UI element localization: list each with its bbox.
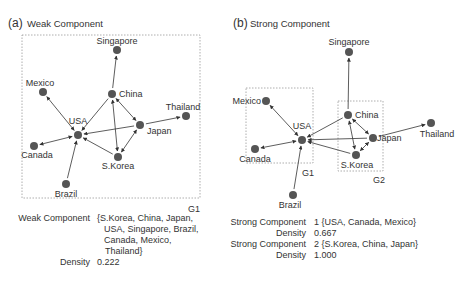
panel-b-group2-label: G2 — [373, 175, 385, 185]
node-brazil — [289, 191, 297, 199]
edge-china-japan — [352, 119, 368, 134]
node-label-canada: Canada — [21, 150, 53, 160]
edge-usa-canada — [40, 136, 72, 144]
node-canada — [251, 145, 259, 153]
node-singapore — [113, 46, 121, 54]
edge-china-skorea — [113, 100, 118, 151]
node-label-canada: Canada — [239, 154, 271, 164]
node-label-singapore: Singapore — [96, 36, 137, 46]
node-canada — [30, 142, 38, 150]
node-japan — [136, 121, 144, 129]
strong-component-1-value: 1 {USA, Canada, Mexico} — [314, 217, 416, 228]
edge-brazil-usa — [294, 146, 301, 189]
weak-component-line-2: USA, Singapore, Brazil, — [104, 224, 199, 235]
node-label-mexico: Mexico — [232, 96, 261, 106]
node-japan — [369, 134, 377, 142]
weak-density-value: 0.222 — [97, 257, 120, 268]
node-label-singapore: Singapore — [328, 37, 369, 47]
strong-density-2-key: Density — [200, 250, 306, 261]
edge-usa-canada — [261, 141, 296, 148]
panel-a-letter: (a) — [8, 16, 23, 30]
panel-strong-component: (b) Strong Component G1 G2 SingaporeMexi… — [232, 16, 454, 210]
panel-b-letter: (b) — [233, 16, 248, 30]
node-label-japan: Japan — [377, 133, 402, 143]
edges-panel-a — [40, 56, 180, 178]
weak-component-key: Weak Component — [8, 213, 90, 224]
node-mexico — [39, 88, 47, 96]
node-brazil — [62, 180, 70, 188]
weak-component-line-4: Thailand} — [105, 246, 143, 257]
panel-a-title: Weak Component — [27, 18, 103, 29]
edge-japan-usa — [308, 138, 367, 140]
panel-b-title: Strong Component — [250, 18, 330, 29]
node-label-thailand: Thailand — [420, 129, 455, 139]
node-label-mexico: Mexico — [26, 78, 55, 88]
node-thailand — [182, 112, 190, 120]
node-label-japan: Japan — [147, 126, 172, 136]
node-label-skorea: S.Korea — [102, 161, 135, 171]
edge-china-singapore — [113, 56, 117, 88]
node-usa — [298, 136, 306, 144]
edge-japan-thailand — [146, 117, 180, 124]
node-mexico — [262, 97, 270, 105]
weak-component-line-3: Canada, Mexico, — [104, 235, 172, 246]
edge-japan-skorea — [360, 142, 369, 151]
edge-china-japan — [116, 98, 136, 120]
strong-component-1-key: Strong Component — [200, 217, 306, 228]
node-skorea — [114, 153, 122, 161]
node-china — [344, 111, 352, 119]
strong-density-1-value: 0.667 — [314, 228, 337, 239]
strong-component-2-value: 2 {S.Korea, China, Japan} — [314, 239, 418, 250]
g1-weak-box — [22, 35, 200, 198]
node-usa — [74, 131, 82, 139]
edge-china-singapore — [348, 58, 349, 109]
strong-component-2-key: Strong Component — [200, 239, 306, 250]
weak-component-line-1: {S.Korea, China, Japan, — [97, 213, 193, 224]
edge-china-usa — [307, 118, 342, 137]
node-label-thailand: Thailand — [166, 102, 201, 112]
edge-japan-usa — [84, 126, 134, 134]
node-skorea — [352, 151, 360, 159]
edge-china-skorea — [349, 121, 355, 149]
edge-skorea-usa — [308, 142, 350, 154]
node-label-skorea: S.Korea — [341, 160, 374, 170]
nodes-panel-a: SingaporeMexicoChinaThailandUSAJapanCana… — [21, 36, 200, 199]
node-label-china: China — [355, 110, 379, 120]
weak-density-key: Density — [8, 257, 90, 268]
panel-b-group1-label: G1 — [302, 168, 314, 178]
edge-japan-skorea — [121, 130, 136, 152]
node-china — [108, 90, 116, 98]
node-singapore — [345, 48, 353, 56]
nodes-panel-b: SingaporeMexicoChinaThailandUSAJapanCana… — [232, 37, 454, 210]
node-label-usa: USA — [293, 121, 312, 131]
node-thailand — [427, 119, 435, 127]
node-label-brazil: Brazil — [279, 200, 302, 210]
strong-density-2-value: 1.000 — [314, 250, 337, 261]
edge-brazil-usa — [67, 141, 76, 178]
strong-density-1-key: Density — [200, 228, 306, 239]
node-label-china: China — [119, 89, 143, 99]
panel-weak-component: (a) Weak Component G1 SingaporeMexicoChi… — [8, 16, 200, 214]
edge-skorea-usa — [83, 138, 112, 154]
node-label-brazil: Brazil — [55, 189, 78, 199]
node-label-usa: USA — [69, 116, 88, 126]
